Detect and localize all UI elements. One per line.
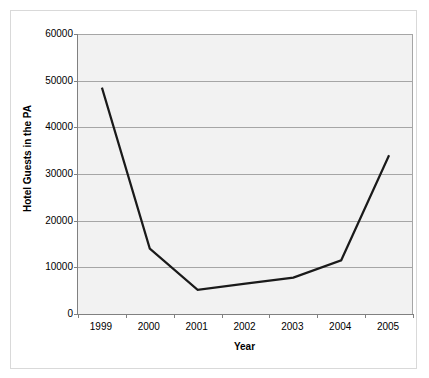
x-tick-label: 1999	[90, 322, 112, 332]
data-series-line	[78, 34, 413, 314]
y-tick-label: 60000	[45, 29, 73, 39]
x-tick-label: 2004	[329, 322, 351, 332]
x-tick-label: 2003	[281, 322, 303, 332]
y-tick-label: 20000	[45, 216, 73, 226]
y-tick-label: 10000	[45, 262, 73, 272]
x-tick-mark	[78, 314, 79, 318]
plot-area	[77, 34, 413, 315]
x-tick-mark	[317, 314, 318, 318]
x-tick-label: 2002	[233, 322, 255, 332]
x-tick-mark	[413, 314, 414, 318]
y-tick-label: 40000	[45, 122, 73, 132]
y-tick-label: 50000	[45, 76, 73, 86]
y-tick-label: 30000	[45, 169, 73, 179]
x-tick-mark	[365, 314, 366, 318]
x-tick-mark	[174, 314, 175, 318]
x-tick-label: 2001	[186, 322, 208, 332]
x-tick-label: 2000	[138, 322, 160, 332]
y-axis-tick-labels: 0100002000030000400005000060000	[21, 34, 73, 314]
x-tick-label: 2005	[377, 322, 399, 332]
x-axis-title: Year	[77, 341, 412, 352]
y-tick-label: 0	[67, 309, 73, 319]
x-tick-mark	[269, 314, 270, 318]
x-tick-mark	[126, 314, 127, 318]
x-axis-tick-labels: 1999200020012002200320042005	[77, 322, 412, 338]
x-tick-mark	[222, 314, 223, 318]
chart-frame: Hotel Guests in the PA 01000020000300004…	[10, 10, 417, 369]
